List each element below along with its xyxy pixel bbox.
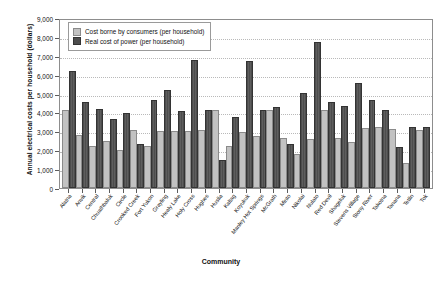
bar-consumer-cost <box>294 154 301 188</box>
x-axis-label-cell: Nulato <box>308 193 322 251</box>
bar-group <box>226 20 240 188</box>
bar-consumer-cost <box>198 130 205 188</box>
bar-real-cost <box>69 71 76 188</box>
legend-swatch-real-cost <box>73 37 81 45</box>
x-axis-label-cell: Tetlin <box>404 193 418 251</box>
bar-real-cost <box>219 160 226 188</box>
x-axis-label-cell: Stony River <box>362 193 376 251</box>
bar-group <box>403 20 417 188</box>
x-axis-label-cell: Fort Yukon <box>143 193 157 251</box>
x-axis-label-cell: McGrath <box>267 193 281 251</box>
x-axis-title: Community <box>0 258 442 265</box>
bar-real-cost <box>123 113 130 188</box>
bar-real-cost <box>369 100 376 188</box>
bar-consumer-cost <box>157 131 164 188</box>
bar-real-cost <box>178 111 185 188</box>
bar-group <box>375 20 389 188</box>
chart-legend: Cost borne by consumers (per household) … <box>68 22 211 51</box>
y-axis-tick-label: 8,000 <box>13 34 53 41</box>
bar-real-cost <box>341 106 348 188</box>
legend-item-consumers: Cost borne by consumers (per household) <box>73 28 204 36</box>
bar-consumer-cost <box>185 131 192 188</box>
x-axis-label-cell: Huslia <box>212 193 226 251</box>
bar-consumer-cost <box>239 132 246 188</box>
bar-consumer-cost <box>89 146 96 188</box>
bar-real-cost <box>110 119 117 188</box>
bar-group <box>294 20 308 188</box>
bar-real-cost <box>96 109 103 188</box>
bar-group <box>307 20 321 188</box>
legend-item-real-cost: Real cost of power (per household) <box>73 37 204 45</box>
bar-consumer-cost <box>226 146 233 188</box>
bar-group <box>362 20 376 188</box>
bar-group <box>335 20 349 188</box>
bar-consumer-cost <box>321 110 328 189</box>
bar-consumer-cost <box>62 110 69 188</box>
legend-label-real-cost: Real cost of power (per household) <box>85 38 184 45</box>
y-axis-tick-label: 1,000 <box>13 167 53 174</box>
bar-real-cost <box>409 127 416 189</box>
bar-consumer-cost <box>144 146 151 188</box>
bar-real-cost <box>287 144 294 188</box>
bar-real-cost <box>191 60 198 188</box>
x-axis-tick-labels: AlatnaAnvikCentralChuathbalukCircleCrook… <box>59 193 433 251</box>
bar-consumer-cost <box>362 128 369 188</box>
x-axis-label-cell: Tok <box>417 193 431 251</box>
bar-group <box>266 20 280 188</box>
x-axis-tick-label: Tok <box>419 193 429 204</box>
bar-consumer-cost <box>280 138 287 188</box>
bar-consumer-cost <box>416 130 423 188</box>
x-axis-tick-label: Alatna <box>58 193 73 209</box>
bar-real-cost <box>355 83 362 188</box>
x-axis-label-cell: Anvik <box>75 193 89 251</box>
x-axis-label-cell: Central <box>88 193 102 251</box>
y-axis-tick-label: 9,000 <box>13 16 53 23</box>
x-axis-label-cell: Stevens Village <box>349 193 363 251</box>
bar-consumer-cost <box>348 142 355 188</box>
bar-real-cost <box>273 107 280 188</box>
bar-group <box>348 20 362 188</box>
x-axis-label-cell: Takotna <box>376 193 390 251</box>
y-axis-tick-label: 2,000 <box>13 148 53 155</box>
bar-consumer-cost <box>253 136 260 188</box>
bar-consumer-cost <box>375 127 382 188</box>
bar-consumer-cost <box>403 163 410 188</box>
x-axis-label-cell: Minto <box>280 193 294 251</box>
x-axis-label-cell: Crooked Creek <box>130 193 144 251</box>
y-axis-tick-label: 6,000 <box>13 72 53 79</box>
bar-real-cost <box>246 61 253 188</box>
x-axis-label-cell: Hughes <box>198 193 212 251</box>
bar-consumer-cost <box>103 141 110 188</box>
bar-group <box>280 20 294 188</box>
bar-real-cost <box>137 144 144 189</box>
bar-real-cost <box>423 127 430 189</box>
legend-swatch-consumers <box>73 28 81 36</box>
bar-real-cost <box>82 102 89 188</box>
bar-group <box>389 20 403 188</box>
bar-real-cost <box>232 117 239 188</box>
bar-consumer-cost <box>76 135 83 188</box>
y-axis-tick-label: 5,000 <box>13 91 53 98</box>
bar-group <box>253 20 267 188</box>
y-axis-tick-label: 4,000 <box>13 110 53 117</box>
x-axis-label-cell: Healy Lake <box>171 193 185 251</box>
legend-label-consumers: Cost borne by consumers (per household) <box>85 28 204 35</box>
bar-consumer-cost <box>130 130 137 188</box>
y-axis-tick-label: 0 <box>13 186 53 193</box>
bar-real-cost <box>164 90 171 188</box>
bar-group <box>321 20 335 188</box>
x-axis-label-cell: Nikolai <box>294 193 308 251</box>
bar-consumer-cost <box>117 150 124 188</box>
bar-consumer-cost <box>335 138 342 188</box>
x-axis-tick-label: Tetlin <box>402 193 415 207</box>
bar-real-cost <box>260 110 267 188</box>
y-axis-tick-label: 3,000 <box>13 129 53 136</box>
bar-group <box>416 20 430 188</box>
bar-real-cost <box>151 100 158 188</box>
x-axis-tick-label: Huslia <box>209 193 223 209</box>
bar-real-cost <box>205 110 212 188</box>
bar-consumer-cost <box>266 110 273 189</box>
bar-real-cost <box>328 102 335 188</box>
bar-group <box>212 20 226 188</box>
bar-consumer-cost <box>212 110 219 189</box>
